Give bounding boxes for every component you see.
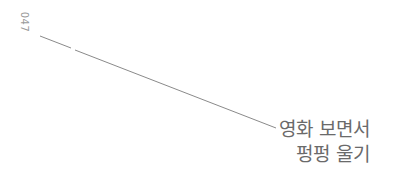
title-line-1: 영화 보면서 (279, 117, 370, 142)
page: 047 영화 보면서 펑펑 울기 (0, 0, 393, 187)
chapter-title: 영화 보면서 펑펑 울기 (279, 117, 370, 167)
title-line-2: 펑펑 울기 (279, 142, 370, 167)
